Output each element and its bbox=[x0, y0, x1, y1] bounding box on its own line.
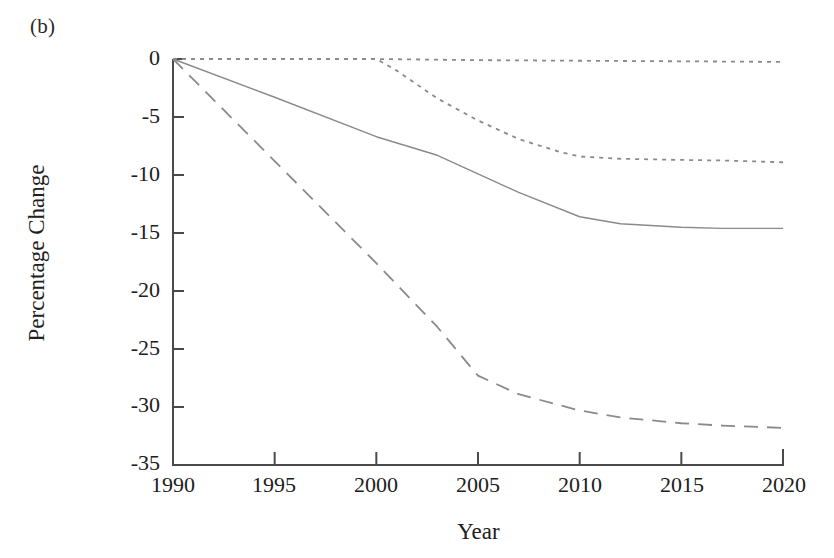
axis-lines bbox=[173, 59, 783, 465]
series-line-scenario-dashed bbox=[173, 59, 783, 428]
figure-panel: (b) Percentage Change Year 0 -5 -10 -15 … bbox=[0, 0, 834, 558]
x-axis-ticks bbox=[173, 452, 783, 465]
series-line-scenario-solid bbox=[173, 59, 783, 228]
y-axis-ticks bbox=[173, 59, 184, 465]
chart-plot-area bbox=[0, 0, 834, 558]
data-series-layer bbox=[173, 59, 783, 428]
series-line-scenario-dotted-declining bbox=[173, 59, 783, 162]
